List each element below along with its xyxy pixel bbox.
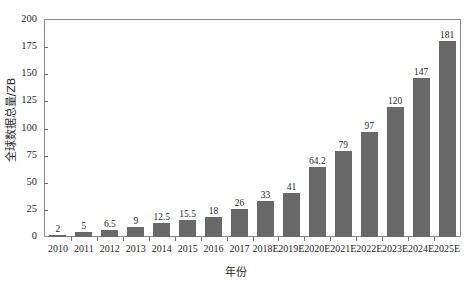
y-axis-tick-label: 150 <box>21 67 37 78</box>
x-axis-tick-mark <box>304 237 305 241</box>
bar-slot: 12.5 <box>153 20 170 237</box>
bar[interactable] <box>361 132 378 237</box>
bar-value-label: 97 <box>364 121 374 131</box>
bar[interactable] <box>439 41 456 237</box>
x-axis-tick-mark <box>201 237 202 241</box>
bar-slot: 5 <box>75 20 92 237</box>
x-axis-tick-label: 2018E <box>252 243 278 254</box>
y-axis-title: 全球数据总量/ZB <box>0 0 20 240</box>
x-axis-tick-mark <box>253 237 254 241</box>
bar-slot: 9 <box>127 20 144 237</box>
bar[interactable] <box>413 78 430 237</box>
x-axis-tick-label: 2016 <box>204 243 224 254</box>
bar-value-label: 64.2 <box>309 156 326 166</box>
x-axis-tick-label: 2010 <box>48 243 68 254</box>
bar-value-label: 18 <box>209 206 219 216</box>
x-axis-title: 年份 <box>0 263 471 279</box>
bar[interactable] <box>335 151 352 237</box>
bar-value-label: 147 <box>414 67 428 77</box>
bar-value-label: 15.5 <box>179 209 196 219</box>
x-axis-tick-label: 2022E <box>356 243 382 254</box>
x-axis-tick-mark <box>356 237 357 241</box>
x-axis-tick-mark <box>382 237 383 241</box>
bar-slot: 147 <box>413 20 430 237</box>
y-axis-tick-label: 125 <box>21 94 37 105</box>
bar-value-label: 33 <box>261 190 271 200</box>
bar-slot: 15.5 <box>179 20 196 237</box>
bar[interactable] <box>205 217 222 237</box>
y-axis-tick-label: 200 <box>21 13 37 24</box>
bar-value-label: 5 <box>82 221 87 231</box>
x-axis-tick-label: 2019E <box>278 243 304 254</box>
x-axis-tick-mark <box>434 237 435 241</box>
x-axis-ticks <box>45 237 460 242</box>
x-axis-tick-mark <box>175 237 176 241</box>
y-axis-title-text: 全球数据总量/ZB <box>2 78 18 163</box>
x-axis-tick-mark <box>227 237 228 241</box>
bar-slot: 6.5 <box>101 20 118 237</box>
x-axis-tick-label: 2017 <box>230 243 250 254</box>
bar-slot: 41 <box>283 20 300 237</box>
bar-slot: 2 <box>49 20 66 237</box>
bar-slot: 18 <box>205 20 222 237</box>
x-axis-tick-mark <box>97 237 98 241</box>
bar-value-label: 9 <box>133 216 138 226</box>
x-axis-tick-label: 2024E <box>408 243 434 254</box>
bar-slot: 79 <box>335 20 352 237</box>
x-axis-tick-label: 2025E <box>434 243 460 254</box>
bar-value-label: 79 <box>339 140 349 150</box>
x-axis-tick-label: 2014 <box>152 243 172 254</box>
x-axis-tick-label: 2013 <box>126 243 146 254</box>
bar[interactable] <box>127 227 144 237</box>
y-axis-tick-label: 100 <box>21 122 37 133</box>
bar[interactable] <box>309 167 326 237</box>
y-axis-tick-label: 25 <box>27 203 38 214</box>
bar-slot: 26 <box>231 20 248 237</box>
x-axis-tick-label: 2015 <box>178 243 198 254</box>
bar[interactable] <box>231 209 248 237</box>
y-axis-tick-label: 0 <box>32 230 37 241</box>
x-axis-tick-label: 2012 <box>100 243 120 254</box>
bar-slot: 97 <box>361 20 378 237</box>
bar[interactable] <box>387 107 404 237</box>
bar-value-label: 41 <box>287 182 297 192</box>
x-axis-tick-label: 2023E <box>382 243 408 254</box>
bar[interactable] <box>101 230 118 237</box>
bar[interactable] <box>179 220 196 237</box>
bar-value-label: 120 <box>388 96 402 106</box>
bar-slot: 120 <box>387 20 404 237</box>
x-axis-labels: 201020112012201320142015201620172018E201… <box>45 243 460 259</box>
bar[interactable] <box>257 201 274 237</box>
x-axis-tick-label: 2011 <box>74 243 94 254</box>
x-axis-tick-label: 2020E <box>304 243 330 254</box>
bar-value-label: 6.5 <box>104 219 116 229</box>
x-axis-tick-mark <box>71 237 72 241</box>
bar-slot: 64.2 <box>309 20 326 237</box>
x-axis-tick-mark <box>278 237 279 241</box>
bar-value-label: 2 <box>56 224 61 234</box>
x-axis-tick-mark <box>149 237 150 241</box>
bar-value-label: 12.5 <box>153 212 170 222</box>
x-axis-tick-mark <box>408 237 409 241</box>
y-axis-tick-label: 175 <box>21 40 37 51</box>
bar-slot: 181 <box>439 20 456 237</box>
bar-chart: 全球数据总量/ZB 0255075100125150175200 256.591… <box>0 0 471 285</box>
x-axis-tick-mark <box>123 237 124 241</box>
x-axis-tick-mark <box>330 237 331 241</box>
bar-value-label: 26 <box>235 198 245 208</box>
bar-value-label: 181 <box>440 30 454 40</box>
bar[interactable] <box>153 223 170 237</box>
bar[interactable] <box>283 193 300 237</box>
x-axis-tick-label: 2021E <box>330 243 356 254</box>
bars-layer: 256.5912.515.51826334164.27997120147181 <box>45 20 460 237</box>
bar-slot: 33 <box>257 20 274 237</box>
y-axis-tick-label: 50 <box>27 176 38 187</box>
y-axis-tick-label: 75 <box>27 149 38 160</box>
